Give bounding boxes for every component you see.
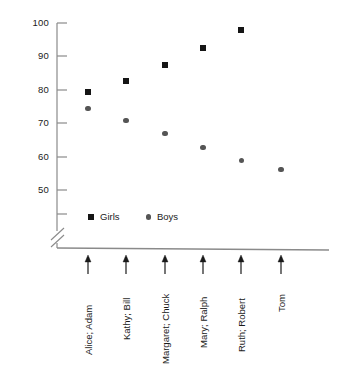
x-tick-label-0: Alice; Adam	[84, 305, 94, 355]
y-tick-label-2: 80	[19, 85, 49, 95]
y-tick-label-0: 100	[19, 18, 49, 28]
data-point-girls-4	[238, 27, 244, 33]
data-point-boys-3	[200, 145, 205, 150]
data-point-girls-3	[200, 45, 206, 51]
data-point-girls-2	[162, 62, 168, 68]
y-tick-label-1: 90	[19, 51, 49, 61]
legend-circle-marker-icon	[146, 214, 151, 219]
x-tick-arrow-1	[123, 255, 129, 274]
chart-axes-layer	[0, 0, 343, 369]
data-point-boys-1	[123, 118, 128, 123]
y-tick-label-5: 50	[19, 185, 49, 195]
x-tick-arrow-2	[162, 255, 168, 274]
x-tick-label-3: Mary; Ralph	[199, 297, 209, 348]
x-tick-label-1: Kathy; Bill	[122, 298, 132, 340]
x-tick-arrow-3	[200, 255, 206, 274]
x-tick-label-5: Tom	[277, 294, 287, 312]
x-axis-line	[57, 248, 329, 250]
x-tick-arrow-group	[85, 255, 284, 274]
scatter-chart: 100 90 80 70 60 50 Girls Boys Alice; Ada…	[0, 0, 343, 369]
legend-label-girls: Girls	[100, 212, 120, 222]
data-point-girls-1	[123, 78, 129, 84]
y-tick-label-3: 70	[19, 118, 49, 128]
x-tick-arrow-5	[278, 255, 284, 274]
x-tick-label-2: Margaret; Chuck	[161, 294, 171, 364]
legend-item-boys: Boys	[146, 212, 179, 222]
chart-legend: Girls Boys	[88, 212, 178, 222]
legend-square-marker-icon	[88, 214, 94, 220]
x-tick-arrow-0	[85, 255, 91, 274]
data-point-girls-0	[85, 89, 91, 95]
x-tick-label-4: Ruth; Robert	[237, 298, 247, 352]
data-point-boys-0	[85, 106, 90, 111]
y-tick-label-4: 60	[19, 152, 49, 162]
data-point-boys-2	[162, 131, 167, 136]
legend-label-boys: Boys	[157, 212, 178, 222]
legend-item-girls: Girls	[88, 212, 120, 222]
x-tick-arrow-4	[238, 255, 244, 274]
data-point-boys-5	[278, 167, 283, 172]
